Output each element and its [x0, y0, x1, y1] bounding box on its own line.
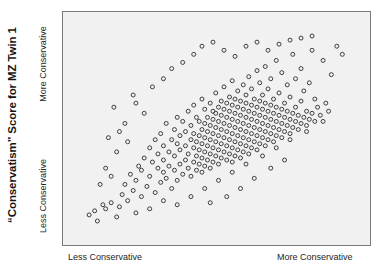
data-point — [150, 85, 154, 89]
data-point — [219, 128, 223, 132]
data-point — [159, 180, 163, 184]
data-point — [156, 166, 160, 170]
data-point — [87, 213, 91, 217]
data-point — [241, 107, 245, 111]
data-point — [217, 162, 221, 166]
data-point — [197, 134, 201, 138]
data-point — [217, 105, 221, 109]
data-point — [305, 109, 309, 113]
data-point — [277, 113, 281, 117]
data-point — [288, 132, 292, 136]
data-point — [305, 130, 309, 134]
data-point — [208, 201, 212, 205]
data-point — [112, 105, 116, 109]
data-point — [153, 138, 157, 142]
data-point — [230, 103, 234, 107]
data-point — [228, 138, 232, 142]
data-point — [258, 81, 262, 85]
data-point — [280, 71, 284, 75]
data-point — [250, 103, 254, 107]
y-axis-title-text: “Conservatism” Score for MZ Twin 1 — [6, 27, 18, 223]
data-point — [178, 162, 182, 166]
data-point — [239, 128, 243, 132]
data-point — [233, 54, 237, 58]
data-point — [261, 121, 265, 125]
data-point — [252, 140, 256, 144]
data-point — [161, 170, 165, 174]
data-point — [208, 166, 212, 170]
data-point — [192, 52, 196, 56]
data-point — [189, 174, 193, 178]
data-point — [186, 166, 190, 170]
data-point — [266, 48, 270, 52]
data-point — [106, 136, 110, 140]
data-point — [318, 113, 322, 117]
data-point — [228, 123, 232, 127]
data-point — [172, 128, 176, 132]
data-point — [228, 109, 232, 113]
data-point — [219, 113, 223, 117]
data-point — [172, 168, 176, 172]
data-point — [230, 117, 234, 121]
data-point — [283, 158, 287, 162]
data-point — [255, 148, 259, 152]
scatter-plot-figure: “Conservatism” Score for MZ Twin 1 More … — [0, 0, 387, 279]
data-point — [236, 148, 240, 152]
data-point — [194, 140, 198, 144]
data-point — [159, 132, 163, 136]
data-point — [244, 93, 248, 97]
data-point — [205, 144, 209, 148]
data-point — [117, 205, 121, 209]
data-point — [115, 150, 119, 154]
data-point — [321, 58, 325, 62]
data-point — [222, 121, 226, 125]
data-point — [134, 101, 138, 105]
data-point — [167, 164, 171, 168]
data-point — [211, 40, 215, 44]
data-point — [170, 187, 174, 191]
data-point — [170, 138, 174, 142]
data-point — [241, 83, 245, 87]
data-point — [244, 130, 248, 134]
data-point — [95, 219, 99, 223]
data-point — [142, 111, 146, 115]
data-point — [200, 156, 204, 160]
data-point — [321, 119, 325, 123]
data-point — [137, 164, 141, 168]
data-point — [175, 115, 179, 119]
data-point — [214, 126, 218, 130]
data-point — [219, 142, 223, 146]
data-point — [244, 44, 248, 48]
data-point — [269, 103, 273, 107]
data-point — [222, 107, 226, 111]
data-point — [225, 130, 229, 134]
data-point — [222, 136, 226, 140]
data-point — [230, 79, 234, 83]
data-point — [283, 115, 287, 119]
data-point — [183, 158, 187, 162]
data-point — [131, 93, 135, 97]
data-point — [255, 40, 259, 44]
data-point — [299, 99, 303, 103]
data-point — [126, 140, 130, 144]
data-point — [214, 140, 218, 144]
data-point — [128, 172, 132, 176]
data-point — [153, 191, 157, 195]
data-point — [139, 195, 143, 199]
data-point — [205, 130, 209, 134]
scatter-series — [87, 34, 344, 223]
data-point — [109, 201, 113, 205]
data-point — [277, 42, 281, 46]
data-point — [208, 123, 212, 127]
data-point — [305, 123, 309, 127]
data-point — [203, 164, 207, 168]
data-point — [252, 176, 256, 180]
data-point — [233, 111, 237, 115]
data-point — [272, 97, 276, 101]
data-point — [134, 178, 138, 182]
data-point — [117, 130, 121, 134]
data-point — [307, 81, 311, 85]
data-point — [211, 117, 215, 121]
data-point — [285, 123, 289, 127]
data-point — [263, 144, 267, 148]
